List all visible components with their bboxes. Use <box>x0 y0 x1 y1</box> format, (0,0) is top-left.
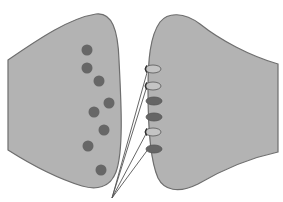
receptor-bound <box>146 97 162 105</box>
vesicle <box>83 141 94 152</box>
receptor-open <box>145 82 161 90</box>
vesicle <box>82 45 93 56</box>
vesicle <box>89 107 100 118</box>
vesicle <box>82 63 93 74</box>
vesicle <box>96 165 107 176</box>
synapse-diagram <box>0 0 283 202</box>
receptor-open <box>145 65 161 73</box>
vesicle <box>104 98 115 109</box>
vesicle <box>94 76 105 87</box>
receptor-bound <box>146 145 162 153</box>
receptor-open <box>145 128 161 136</box>
receptor-bound <box>146 113 162 121</box>
vesicle <box>99 125 110 136</box>
